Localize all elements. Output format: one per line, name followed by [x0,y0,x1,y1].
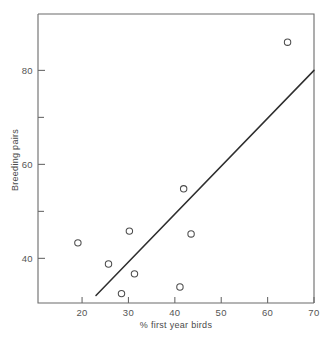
axis-frame-path [38,14,314,303]
scatter-plot-figure: 406080 203040506070 % first year birds B… [0,0,331,338]
data-point-4 [131,271,137,277]
data-point-6 [180,186,186,192]
y-axis-ticks [38,70,45,258]
x-axis-ticks [82,297,314,303]
y-tick-label-40: 40 [22,253,33,264]
data-point-1 [105,261,111,267]
data-point-3 [126,228,132,234]
x-tick-label-60: 60 [262,307,273,318]
data-point-0 [75,240,81,246]
data-point-5 [177,284,183,290]
chart-canvas: 406080 203040506070 % first year birds B… [0,0,331,338]
x-tick-label-70: 70 [308,307,319,318]
x-tick-label-40: 40 [169,307,180,318]
y-axis-tick-labels: 406080 [22,65,33,264]
y-tick-label-80: 80 [22,65,33,76]
x-tick-label-50: 50 [216,307,227,318]
regression-line [96,70,314,295]
plot-axes-frame [38,14,314,303]
x-axis-tick-labels: 203040506070 [76,307,319,318]
data-point-8 [284,39,290,45]
y-axis-title: Breeding pairs [10,129,20,191]
x-axis-title: % first year birds [140,320,213,330]
scatter-markers [75,39,291,297]
x-tick-label-20: 20 [76,307,87,318]
data-point-2 [118,290,124,296]
x-tick-label-30: 30 [123,307,134,318]
data-point-7 [188,231,194,237]
y-tick-label-60: 60 [22,159,33,170]
regression-line-group [96,70,314,295]
